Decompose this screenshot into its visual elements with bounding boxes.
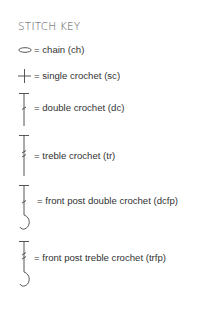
stitch-label: = treble crochet (tr) bbox=[34, 150, 115, 162]
treble-crochet-icon bbox=[19, 135, 29, 176]
double-crochet-icon bbox=[19, 93, 29, 126]
chain-oval-icon bbox=[18, 47, 32, 53]
stitch-label: = single crochet (sc) bbox=[34, 70, 120, 82]
single-crochet-cross-icon bbox=[18, 69, 31, 83]
front-post-treble-crochet-icon bbox=[19, 241, 35, 291]
stitch-label: = double crochet (dc) bbox=[34, 102, 124, 114]
stitch-label: = chain (ch) bbox=[34, 44, 84, 56]
stitch-label: = front post treble crochet (trfp) bbox=[34, 252, 166, 264]
stitch-key-title: STITCH KEY bbox=[18, 20, 80, 32]
stitch-label: = front post double crochet (dcfp) bbox=[37, 195, 178, 207]
front-post-double-crochet-icon bbox=[19, 185, 35, 233]
